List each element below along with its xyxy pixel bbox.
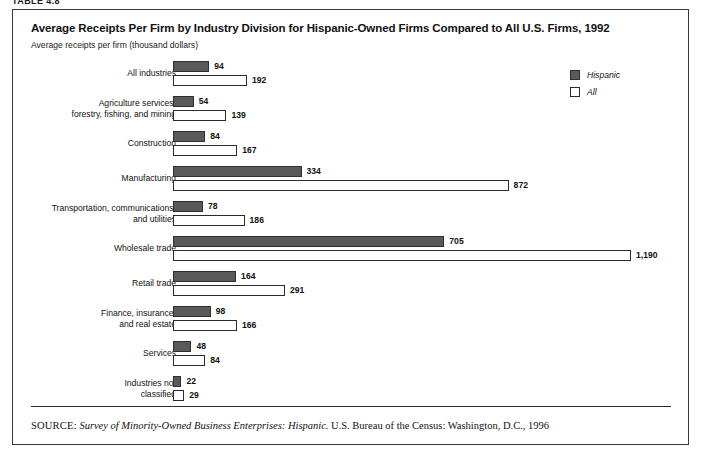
bar-value-label: 192 (252, 75, 266, 86)
category-label-line: All industries (0, 68, 176, 79)
bar-hispanic[interactable] (173, 306, 211, 317)
category-label-line: Construction (0, 138, 176, 149)
category-label-line: Wholesale trade (0, 243, 176, 254)
chart-row: Transportation, communications,and utili… (13, 201, 688, 236)
bar-value-label: 84 (210, 131, 220, 142)
chart-row: Wholesale trade7051,190 (13, 236, 688, 271)
category-label-line: Services (0, 348, 176, 359)
bar-hispanic[interactable] (173, 96, 194, 107)
category-label: Retail trade (0, 278, 176, 289)
bar-value-label: 334 (307, 166, 321, 177)
category-label-line: and utilities (0, 214, 176, 225)
chart-title: Average Receipts Per Firm by Industry Di… (31, 22, 610, 34)
bar-hispanic[interactable] (173, 376, 181, 387)
bar-all[interactable] (173, 215, 245, 226)
source-rest: U.S. Bureau of the Census: Washington, D… (328, 420, 549, 431)
category-label-line: and real estate (0, 319, 176, 330)
bar-value-label: 94 (214, 61, 224, 72)
bar-value-label: 872 (514, 180, 528, 191)
bar-value-label: 139 (231, 110, 245, 121)
bar-hispanic[interactable] (173, 271, 236, 282)
bar-value-label: 98 (216, 306, 226, 317)
category-label-line: classified (0, 389, 176, 400)
chart-row: Finance, insurance,and real estate98166 (13, 306, 688, 341)
bar-value-label: 166 (242, 320, 256, 331)
bar-hispanic[interactable] (173, 131, 205, 142)
bar-value-label: 78 (208, 201, 218, 212)
bar-all[interactable] (173, 75, 247, 86)
bar-all[interactable] (173, 180, 509, 191)
source-label: SOURCE: (31, 420, 77, 431)
category-label: Wholesale trade (0, 243, 176, 254)
bar-value-label: 29 (189, 390, 199, 401)
bar-all[interactable] (173, 320, 237, 331)
category-label: Finance, insurance,and real estate (0, 308, 176, 329)
chart-subtitle: Average receipts per firm (thousand doll… (31, 40, 198, 50)
category-label: Services (0, 348, 176, 359)
chart-row: All industries94192 (13, 61, 688, 96)
bar-value-label: 705 (449, 236, 463, 247)
bar-value-label: 164 (241, 271, 255, 282)
bar-value-label: 186 (250, 215, 264, 226)
source-note: SOURCE: Survey of Minority-Owned Busines… (31, 420, 549, 431)
plot-baseline-rule (31, 406, 671, 407)
bar-hispanic[interactable] (173, 61, 209, 72)
category-label-line: Finance, insurance, (0, 308, 176, 319)
source-title: Survey of Minority-Owned Business Enterp… (79, 420, 328, 431)
bar-hispanic[interactable] (173, 201, 203, 212)
category-label-line: forestry, fishing, and mining (0, 109, 176, 120)
bar-all[interactable] (173, 285, 285, 296)
chart-row: Retail trade164291 (13, 271, 688, 306)
figure-caption: TABLE 4.8 (12, 0, 60, 5)
bar-hispanic[interactable] (173, 236, 444, 247)
bar-value-label: 84 (210, 355, 220, 366)
bar-hispanic[interactable] (173, 341, 191, 352)
bar-all[interactable] (173, 110, 226, 121)
chart-row: Agriculture services,forestry, fishing, … (13, 96, 688, 131)
category-label: Industries notclassified (0, 378, 176, 399)
chart-panel: Average Receipts Per Firm by Industry Di… (12, 9, 689, 445)
category-label-line: Transportation, communications, (0, 203, 176, 214)
category-label: Construction (0, 138, 176, 149)
category-label: Transportation, communications,and utili… (0, 203, 176, 224)
category-label-line: Manufacturing (0, 173, 176, 184)
category-label: All industries (0, 68, 176, 79)
bar-all[interactable] (173, 355, 205, 366)
bar-value-label: 54 (199, 96, 209, 107)
bar-value-label: 1,190 (636, 250, 658, 261)
category-label-line: Agriculture services, (0, 98, 176, 109)
chart-row: Services4884 (13, 341, 688, 376)
category-label-line: Industries not (0, 378, 176, 389)
category-label: Agriculture services,forestry, fishing, … (0, 98, 176, 119)
bar-chart-plot: All industries94192Agriculture services,… (13, 56, 688, 406)
bar-all[interactable] (173, 390, 184, 401)
category-label: Manufacturing (0, 173, 176, 184)
bar-value-label: 167 (242, 145, 256, 156)
bar-value-label: 291 (290, 285, 304, 296)
bar-all[interactable] (173, 145, 237, 156)
chart-row: Construction84167 (13, 131, 688, 166)
bar-value-label: 22 (186, 376, 196, 387)
category-label-line: Retail trade (0, 278, 176, 289)
bar-hispanic[interactable] (173, 166, 302, 177)
bar-all[interactable] (173, 250, 631, 261)
bar-value-label: 48 (196, 341, 206, 352)
chart-row: Manufacturing334872 (13, 166, 688, 201)
